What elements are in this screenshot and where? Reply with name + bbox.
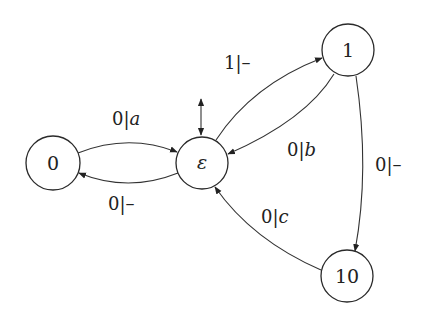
edge-1-to-10 [355, 76, 363, 251]
state-1-label: 1 [342, 39, 354, 61]
edge-label-1-10: 0|– [375, 154, 402, 176]
edge-label-eps-1: 1|– [224, 52, 251, 74]
edge-0-to-eps [78, 143, 177, 153]
state-10-label: 10 [335, 265, 359, 287]
state-diagram: 0 ε 1 10 0|a 0|– 1|– 0|b 0|– 0|c [0, 0, 432, 319]
state-10[interactable]: 10 [321, 250, 373, 302]
state-epsilon[interactable]: ε [176, 137, 228, 189]
edge-label-10-eps: 0|c [261, 206, 289, 228]
edge-label-1-eps: 0|b [287, 139, 316, 161]
state-0-label: 0 [47, 152, 59, 174]
edge-label-eps-0: 0|– [108, 193, 135, 215]
state-0[interactable]: 0 [26, 136, 80, 190]
edge-1-to-eps [228, 74, 334, 154]
edge-eps-to-0 [79, 173, 178, 183]
state-epsilon-label: ε [197, 151, 207, 173]
edge-label-0-eps: 0|a [112, 108, 140, 130]
edge-10-to-eps [215, 187, 321, 270]
state-1[interactable]: 1 [322, 24, 374, 76]
